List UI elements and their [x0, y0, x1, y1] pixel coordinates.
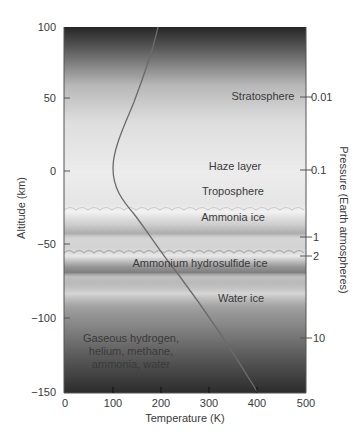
- y-axis-title: Altitude (km): [15, 177, 27, 239]
- svg-text:50: 50: [44, 92, 56, 104]
- svg-text:0: 0: [62, 397, 68, 409]
- svg-text:−150: −150: [31, 386, 56, 398]
- pressure-tick-labels: 0.01 0.1 1 2 10: [311, 91, 332, 344]
- label-ammonium-hydrosulfide-ice: Ammonium hydrosulfide ice: [132, 257, 267, 269]
- svg-text:100: 100: [38, 21, 56, 33]
- label-haze-layer: Haze layer: [209, 160, 262, 172]
- x-tick-labels: 0 100 200 300 400 500: [62, 397, 315, 409]
- label-stratosphere: Stratosphere: [232, 90, 295, 102]
- x-axis-title: Temperature (K): [145, 412, 224, 424]
- svg-text:0.1: 0.1: [311, 164, 326, 176]
- svg-text:1: 1: [313, 231, 319, 243]
- svg-text:100: 100: [104, 397, 122, 409]
- label-water-ice: Water ice: [218, 292, 264, 304]
- svg-text:0: 0: [50, 165, 56, 177]
- label-gas-line2: helium, methane,: [89, 345, 173, 357]
- pressure-axis-title: Pressure (Earth atmospheres): [338, 146, 350, 293]
- svg-text:400: 400: [248, 397, 266, 409]
- svg-text:10: 10: [313, 332, 325, 344]
- label-gas-line3: ammonia, water: [92, 358, 171, 370]
- y-tick-labels: 100 50 0 −50 −100 −150: [31, 21, 56, 398]
- svg-text:300: 300: [200, 397, 218, 409]
- label-ammonia-ice: Ammonia ice: [201, 211, 265, 223]
- svg-text:0.01: 0.01: [311, 91, 332, 103]
- svg-text:500: 500: [297, 397, 315, 409]
- svg-text:2: 2: [313, 250, 319, 262]
- svg-text:−50: −50: [37, 238, 56, 250]
- svg-text:200: 200: [152, 397, 170, 409]
- svg-text:−100: −100: [31, 312, 56, 324]
- label-troposphere: Troposphere: [202, 185, 264, 197]
- label-gas-line1: Gaseous hydrogen,: [83, 332, 179, 344]
- water-ice-band: [64, 283, 306, 313]
- atmosphere-chart: 100 50 0 −50 −100 −150 0 100 200 300 400…: [0, 0, 362, 446]
